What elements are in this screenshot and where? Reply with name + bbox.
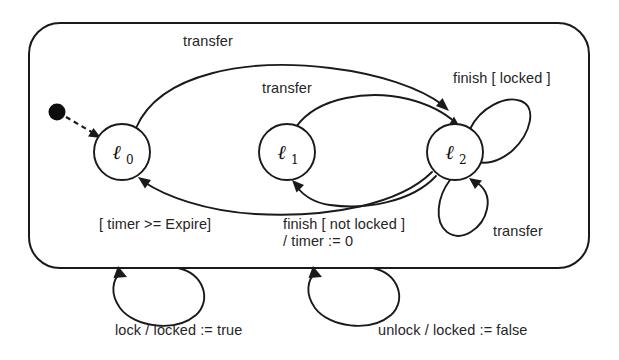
edge-label-region-self-lock: lock / locked := true <box>115 322 242 339</box>
state-label-l1-subscript: 1 <box>291 153 299 167</box>
initial-transition-arrow <box>66 117 95 134</box>
state-label-l0-subscript: 0 <box>126 153 134 167</box>
transition-l2-self-transfer-arrowhead <box>469 178 482 189</box>
transition-l1-l2-path <box>296 95 456 127</box>
transition-l0-l2-arrowhead <box>436 98 449 111</box>
diagram-canvas: ℓ 0 ℓ 1 ℓ 2 <box>0 0 619 360</box>
state-node-l0[interactable] <box>94 124 150 180</box>
edge-label-l2-self-finish: finish [ locked ] <box>453 70 551 87</box>
state-label-l2-subscript: 2 <box>459 153 467 167</box>
edge-label-l2-self-transfer: transfer <box>493 223 543 240</box>
edge-label-l2-l1-line1: finish [ not locked ] <box>283 216 405 233</box>
state-machine-diagram: ℓ 0 ℓ 1 ℓ 2 transfer transfer [ timer >=… <box>0 0 619 360</box>
edge-label-l0-l2: transfer <box>183 33 233 50</box>
state-node-l1[interactable] <box>259 124 315 180</box>
state-label-l1-base: ℓ <box>278 140 287 164</box>
edge-label-l2-l1: finish [ not locked ] / timer := 0 <box>283 216 405 250</box>
transition-l2-self-transfer-path <box>439 180 488 236</box>
edge-label-region-self-unlock: unlock / locked := false <box>378 322 528 339</box>
transition-l2-l0-arrowhead <box>138 177 151 189</box>
transition-region-self-unlock-path <box>308 268 399 326</box>
edge-label-l2-l0: [ timer >= Expire] <box>99 216 211 233</box>
state-label-l0-base: ℓ <box>113 140 122 164</box>
transition-l2-l1-arrowhead <box>292 180 304 193</box>
edge-label-l2-l1-line2: / timer := 0 <box>283 233 405 250</box>
edge-label-l1-l2: transfer <box>262 80 312 97</box>
state-node-l2[interactable] <box>427 124 483 180</box>
initial-pseudostate-dot <box>49 104 66 121</box>
state-label-l2-base: ℓ <box>446 140 455 164</box>
transition-l2-l1-path <box>296 176 436 206</box>
transition-region-self-lock-path <box>113 268 204 326</box>
